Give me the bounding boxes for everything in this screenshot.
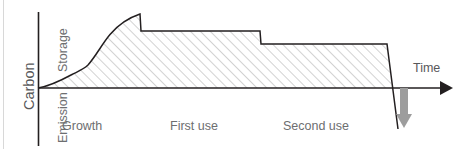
x-axis-title: Time <box>413 62 440 75</box>
phase-label-first-use: First use <box>170 120 218 133</box>
y-axis-positive-label: Storage <box>57 28 70 72</box>
y-axis-title: Carbon <box>22 62 37 110</box>
arrow-right-icon <box>440 81 453 95</box>
phase-label-second-use: Second use <box>283 120 349 133</box>
carbon-storage-area <box>38 14 392 88</box>
carbon-storage-timeline-figure: Carbon Storage Emission Growth First use… <box>0 0 458 149</box>
arrow-down-icon <box>396 88 412 128</box>
phase-label-growth: Growth <box>62 120 102 133</box>
y-axis-negative-label: Emission <box>57 92 70 143</box>
